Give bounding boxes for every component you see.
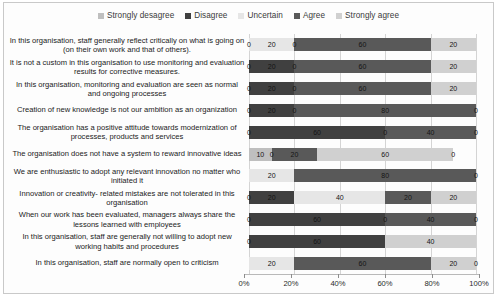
- bar-segment-value: 0: [451, 151, 455, 158]
- legend-item[interactable]: Strongly desagree: [98, 11, 174, 20]
- bar-segment-value: 60: [359, 41, 367, 48]
- stacked-bar[interactable]: 10020600: [249, 148, 476, 161]
- stacked-bar[interactable]: 02006020: [249, 38, 476, 51]
- bar-segment-value: 60: [359, 63, 367, 70]
- x-axis-tick-label: 60%: [377, 279, 392, 288]
- stacked-bar[interactable]: 020402020: [249, 191, 476, 204]
- bar-segment-value: 20: [268, 107, 276, 114]
- legend-item[interactable]: Agree: [294, 11, 325, 20]
- bar-segment[interactable]: 60: [294, 38, 430, 51]
- legend-label: Disagree: [194, 11, 227, 20]
- x-axis-tick: [291, 274, 292, 278]
- bar-segment[interactable]: 80: [294, 169, 476, 182]
- bar-segment-value: 60: [359, 260, 367, 267]
- bar-segment-value: 0: [247, 41, 251, 48]
- bar-segment[interactable]: 20: [431, 60, 476, 73]
- bar-segment[interactable]: 40: [385, 126, 476, 139]
- bar-segment[interactable]: 20: [249, 257, 294, 270]
- bar-segment-value: 0: [292, 85, 296, 92]
- bar-segment[interactable]: 40: [385, 235, 476, 248]
- bar-segment[interactable]: 60: [294, 82, 430, 95]
- stacked-bar[interactable]: 02006020: [249, 60, 476, 73]
- bar-segment-value: 0: [247, 216, 251, 223]
- stacked-bar[interactable]: 02006020: [249, 82, 476, 95]
- category-label: In this organisation, staff generally re…: [9, 36, 245, 55]
- bar-segment-value: 0: [474, 172, 478, 179]
- bar-segment-value: 0: [247, 85, 251, 92]
- bar-segment[interactable]: 60: [294, 257, 430, 270]
- bar-segment[interactable]: 20: [249, 38, 294, 51]
- bar-segment[interactable]: 80: [294, 104, 476, 117]
- stacked-bar[interactable]: 06040: [249, 235, 476, 248]
- bar-segment-value: 0: [474, 216, 478, 223]
- x-axis-tick-label: 20%: [283, 279, 298, 288]
- legend-label: Strongly agree: [345, 11, 399, 20]
- bar-segment-value: 60: [313, 129, 321, 136]
- bar-segment-value: 0: [383, 129, 387, 136]
- legend-item[interactable]: Strongly agree: [336, 11, 399, 20]
- x-axis-line: [244, 274, 479, 275]
- chart-container: Strongly desagreeDisagreeUncertainAgreeS…: [3, 2, 494, 294]
- bar-segment[interactable]: 20: [431, 38, 476, 51]
- bar-segment-value: 20: [268, 85, 276, 92]
- bar-segment[interactable]: 20: [249, 191, 294, 204]
- stacked-bar[interactable]: 20800: [249, 169, 476, 182]
- bar-segment-value: 20: [268, 41, 276, 48]
- category-axis-labels: In this organisation, staff generally re…: [9, 34, 245, 274]
- bar-segment-value: 0: [247, 238, 251, 245]
- bar-segment[interactable]: 60: [249, 235, 385, 248]
- chart-legend: Strongly desagreeDisagreeUncertainAgreeS…: [4, 11, 493, 20]
- bar-segment[interactable]: 20: [249, 60, 294, 73]
- bar-segment-value: 80: [381, 107, 389, 114]
- bar-segment[interactable]: 40: [385, 213, 476, 226]
- x-axis-tick-label: 100%: [469, 279, 488, 288]
- legend-swatch-icon: [98, 13, 104, 19]
- bar-segment[interactable]: 60: [317, 148, 453, 161]
- category-label: In this organisation, staff are normally…: [9, 258, 245, 267]
- bar-segment[interactable]: 20: [431, 82, 476, 95]
- bar-segment[interactable]: 20: [431, 191, 476, 204]
- x-axis-tick: [479, 274, 480, 278]
- bar-segment-value: 0: [292, 63, 296, 70]
- x-axis-tick: [244, 274, 245, 278]
- plot-area: In this organisation, staff generally re…: [9, 34, 490, 274]
- stacked-bar[interactable]: 2060200: [249, 257, 476, 270]
- bar-segment-value: 20: [449, 85, 457, 92]
- x-axis-tick: [385, 274, 386, 278]
- bar-segment[interactable]: 20: [249, 82, 294, 95]
- x-axis-tick-label: 80%: [424, 279, 439, 288]
- bar-segment[interactable]: 20: [249, 169, 294, 182]
- bar-segment[interactable]: 20: [431, 257, 476, 270]
- bar-segment[interactable]: 20: [249, 104, 294, 117]
- legend-swatch-icon: [185, 13, 191, 19]
- bar-segment-value: 20: [268, 194, 276, 201]
- bar-segment-value: 0: [247, 63, 251, 70]
- bar-segment-value: 40: [427, 216, 435, 223]
- category-label: Innovation or creativity- related mistak…: [9, 188, 245, 207]
- bar-segment[interactable]: 60: [249, 213, 385, 226]
- bar-segment-value: 80: [381, 172, 389, 179]
- stacked-bar[interactable]: 0600400: [249, 213, 476, 226]
- bar-segment[interactable]: 20: [385, 191, 430, 204]
- bar-segment-value: 20: [449, 260, 457, 267]
- bar-segment-value: 40: [427, 129, 435, 136]
- legend-swatch-icon: [336, 13, 342, 19]
- legend-item[interactable]: Uncertain: [238, 11, 283, 20]
- x-axis-tick-label: 40%: [330, 279, 345, 288]
- bar-segment[interactable]: 10: [249, 148, 272, 161]
- gridline: [476, 34, 477, 274]
- legend-swatch-icon: [238, 13, 244, 19]
- bar-segment[interactable]: 20: [272, 148, 317, 161]
- legend-label: Strongly desagree: [107, 11, 174, 20]
- x-axis-tick: [338, 274, 339, 278]
- stacked-bar[interactable]: 0600400: [249, 126, 476, 139]
- legend-item[interactable]: Disagree: [185, 11, 227, 20]
- stacked-bar[interactable]: 0200800: [249, 104, 476, 117]
- category-label: When our work has been evaluated, manage…: [9, 210, 245, 229]
- bar-segment[interactable]: 60: [249, 126, 385, 139]
- legend-label: Uncertain: [247, 11, 283, 20]
- bar-segment-value: 0: [292, 41, 296, 48]
- bar-segment[interactable]: 60: [294, 60, 430, 73]
- bar-segment[interactable]: 40: [294, 191, 385, 204]
- category-label: It is not a custom in this organisation …: [9, 57, 245, 76]
